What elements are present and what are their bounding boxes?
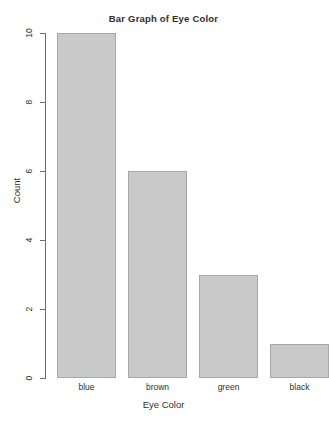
x-axis-title: Eye Color (0, 399, 327, 410)
y-axis-tick (40, 102, 45, 103)
y-axis-tick-label: 0 (23, 371, 35, 385)
x-axis-tick-label: black (270, 382, 329, 392)
y-axis-tick-label: 4 (23, 233, 35, 247)
y-axis-tick-label: 2 (23, 302, 35, 316)
bar (270, 344, 329, 379)
y-axis-tick (40, 240, 45, 241)
bar (128, 171, 187, 378)
x-axis-tick-label: blue (57, 382, 116, 392)
y-axis-tick (40, 33, 45, 34)
bar (57, 33, 116, 378)
chart-title: Bar Graph of Eye Color (0, 13, 327, 24)
bar (199, 275, 258, 379)
plot-area (46, 28, 316, 378)
y-axis-tick-label: 10 (23, 26, 35, 40)
y-axis-tick (40, 171, 45, 172)
y-axis-tick-label: 6 (23, 164, 35, 178)
y-axis-tick (40, 309, 45, 310)
x-axis-tick-label: brown (128, 382, 187, 392)
y-axis-tick-label: 8 (23, 95, 35, 109)
y-axis-tick (40, 378, 45, 379)
x-axis-tick-label: green (199, 382, 258, 392)
y-axis-title: Count (11, 161, 22, 221)
